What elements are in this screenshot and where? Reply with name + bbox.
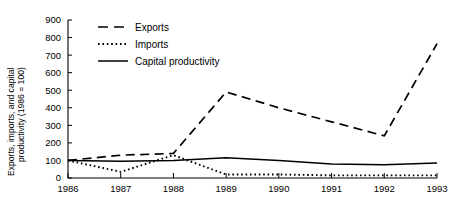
legend-label-capital-productivity: Capital productivity: [135, 56, 219, 67]
x-tick-label: 1993: [426, 183, 447, 194]
x-tick-label: 1986: [57, 183, 78, 194]
y-tick-label: 900: [45, 14, 61, 25]
chart-legend: ExportsImportsCapital productivity: [98, 22, 219, 67]
y-axis-title-line-2: productivity (1986 = 100): [16, 67, 26, 162]
legend-label-imports: Imports: [135, 39, 168, 50]
y-axis-title-line-1: Exports, imports, and capital: [6, 67, 16, 176]
y-tick-label: 700: [45, 50, 61, 61]
line-chart: Exports, imports, and capital productivi…: [0, 0, 455, 213]
series-layer: [68, 44, 437, 176]
x-tick-label: 1992: [374, 183, 395, 194]
x-tick-label: 1987: [110, 183, 131, 194]
y-tick-label: 200: [45, 137, 61, 148]
y-tick-label: 100: [45, 155, 61, 166]
y-tick-label: 600: [45, 67, 61, 78]
series-line-capital-productivity: [68, 158, 437, 165]
x-tick-label: 1990: [268, 183, 289, 194]
y-tick-label: 500: [45, 85, 61, 96]
x-tick-label: 1991: [321, 183, 342, 194]
x-axis-ticks: 19861987198819891990199119921993: [57, 173, 447, 194]
y-axis-title: Exports, imports, and capital productivi…: [6, 67, 26, 176]
legend-label-exports: Exports: [135, 22, 169, 33]
y-tick-label: 300: [45, 120, 61, 131]
x-tick-label: 1988: [163, 183, 184, 194]
y-tick-label: 0: [56, 172, 61, 183]
axis-frame: [68, 20, 437, 178]
chart-figure: Exports, imports, and capital productivi…: [0, 0, 455, 213]
x-tick-label: 1989: [216, 183, 237, 194]
y-tick-label: 400: [45, 102, 61, 113]
y-tick-label: 800: [45, 32, 61, 43]
